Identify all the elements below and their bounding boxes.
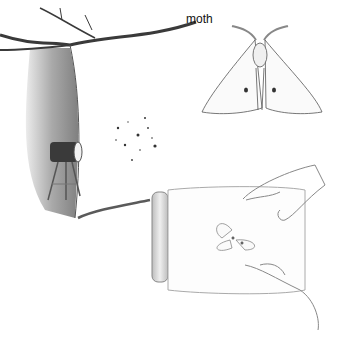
- moth-specimen: [202, 26, 322, 114]
- illustration-canvas: moth: [0, 0, 338, 341]
- illustration-drawing: [0, 0, 338, 341]
- moth-caption-label: moth: [186, 12, 213, 26]
- insect-swarm: [115, 117, 156, 161]
- tree: [0, 8, 196, 218]
- jar-with-moth: [152, 187, 305, 294]
